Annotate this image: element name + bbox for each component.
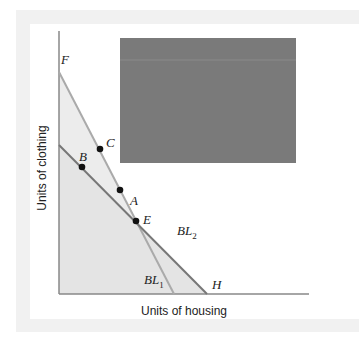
label-a: A xyxy=(129,193,138,208)
label-e: E xyxy=(142,212,151,227)
label-f: F xyxy=(60,52,70,67)
point-b xyxy=(79,164,86,171)
label-b: B xyxy=(79,149,87,164)
point-e xyxy=(133,218,140,225)
y-axis-label: Units of clothing xyxy=(35,125,49,210)
point-a xyxy=(117,187,124,194)
bl2-base: BL xyxy=(177,223,192,238)
label-bl2: BL2 xyxy=(177,223,197,241)
bl1-base: BL xyxy=(144,272,159,287)
label-h: H xyxy=(211,277,222,292)
bl2-sub: 2 xyxy=(192,231,197,241)
occluding-box xyxy=(120,38,296,163)
point-c xyxy=(97,146,104,153)
x-axis-label: Units of housing xyxy=(141,304,227,318)
label-c: C xyxy=(106,135,115,150)
budget-line-chart: F C B A E H BL2 BL1 xyxy=(0,0,359,343)
bl1-sub: 1 xyxy=(159,280,164,290)
